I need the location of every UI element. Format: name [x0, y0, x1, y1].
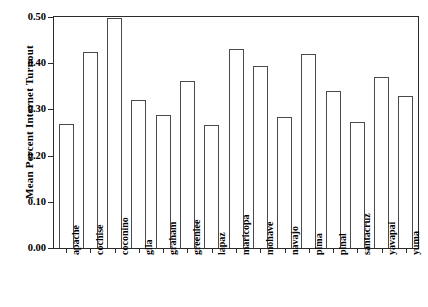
y-axis-tick-label: 0.50	[28, 11, 46, 22]
x-axis-tick-label: gila	[143, 239, 154, 255]
y-axis-tick-label: 0.00	[28, 242, 46, 253]
x-axis-tick	[406, 248, 407, 253]
x-axis-tick-label: santacruz	[361, 213, 372, 255]
x-axis-tick-label: graham	[167, 222, 178, 255]
x-axis-tick-label: navajo	[289, 226, 300, 255]
bar	[107, 18, 122, 248]
x-axis-tick	[90, 248, 91, 253]
plot-area: 0.000.100.200.300.400.50 apachecochiseco…	[53, 16, 419, 249]
x-axis-tick-label: cochise	[94, 224, 105, 255]
x-axis-tick	[309, 248, 310, 253]
bar	[301, 54, 316, 248]
y-axis-tick-label: 0.40	[28, 57, 46, 68]
y-axis-tick-label: 0.30	[28, 103, 46, 114]
x-axis-tick-label: mohave	[264, 222, 275, 255]
y-axis-tick: 0.20	[48, 156, 54, 157]
x-axis-tick	[115, 248, 116, 253]
bar	[83, 52, 98, 248]
bar	[326, 91, 341, 248]
x-axis-tick	[260, 248, 261, 253]
x-axis-tick	[212, 248, 213, 253]
y-axis-tick: 0.10	[48, 202, 54, 203]
x-axis-tick	[139, 248, 140, 253]
y-axis-title: Mean Percent Internet Turnout	[23, 0, 35, 247]
y-axis-tick: 0.00	[48, 248, 54, 249]
y-axis-tick: 0.50	[48, 17, 54, 18]
y-axis-tick: 0.30	[48, 109, 54, 110]
x-axis-tick-label: pinal	[337, 233, 348, 255]
x-axis-tick-label: pima	[313, 233, 324, 255]
x-axis-tick	[382, 248, 383, 253]
x-axis-tick-label: greenlee	[191, 220, 202, 255]
x-axis-tick	[285, 248, 286, 253]
x-axis-tick	[187, 248, 188, 253]
bar-chart-figure: Mean Percent Internet Turnout 0.000.100.…	[0, 0, 428, 307]
x-axis-tick-label: maricopa	[240, 214, 251, 255]
bar	[398, 96, 413, 248]
x-axis-tick	[357, 248, 358, 253]
x-axis-tick-label: coconino	[119, 217, 130, 255]
y-axis-tick: 0.40	[48, 63, 54, 64]
x-axis-tick	[163, 248, 164, 253]
x-axis-tick-label: yuma	[410, 231, 421, 255]
x-axis-tick	[236, 248, 237, 253]
y-axis-tick-label: 0.10	[28, 196, 46, 207]
x-axis-tick	[66, 248, 67, 253]
x-axis-tick-label: yavapai	[386, 222, 397, 255]
bar	[204, 125, 219, 248]
x-axis-tick	[333, 248, 334, 253]
x-axis-tick-label: apache	[70, 225, 81, 255]
bar	[131, 100, 146, 248]
y-axis-tick-label: 0.20	[28, 150, 46, 161]
x-axis-tick-label: lapaz	[216, 232, 227, 255]
